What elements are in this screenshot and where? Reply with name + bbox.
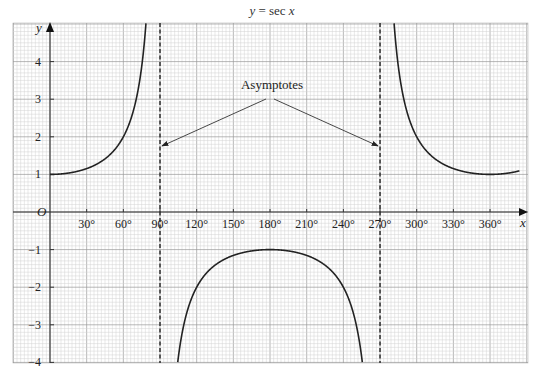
svg-text:3: 3 xyxy=(35,92,41,106)
svg-text:O: O xyxy=(37,204,47,219)
svg-text:330°: 330° xyxy=(442,217,465,231)
svg-text:30°: 30° xyxy=(78,217,95,231)
svg-text:−4: −4 xyxy=(28,355,41,369)
svg-text:180°: 180° xyxy=(259,217,282,231)
svg-text:150°: 150° xyxy=(222,217,245,231)
svg-text:x: x xyxy=(519,215,526,230)
svg-text:2: 2 xyxy=(35,130,41,144)
svg-text:60°: 60° xyxy=(115,217,132,231)
svg-text:210°: 210° xyxy=(295,217,318,231)
svg-text:300°: 300° xyxy=(405,217,428,231)
svg-text:−2: −2 xyxy=(28,280,41,294)
svg-text:−3: −3 xyxy=(28,318,41,332)
svg-text:240°: 240° xyxy=(332,217,355,231)
svg-text:Asymptotes: Asymptotes xyxy=(241,77,303,92)
sec-graph: yxO30°60°90°120°150°180°210°240°270°300°… xyxy=(0,0,544,382)
svg-text:120°: 120° xyxy=(185,217,208,231)
svg-text:1: 1 xyxy=(35,167,41,181)
svg-text:360°: 360° xyxy=(479,217,502,231)
svg-text:y: y xyxy=(34,20,42,35)
svg-text:−1: −1 xyxy=(28,243,41,257)
svg-text:4: 4 xyxy=(35,55,41,69)
graph-paper-grid xyxy=(13,23,528,363)
